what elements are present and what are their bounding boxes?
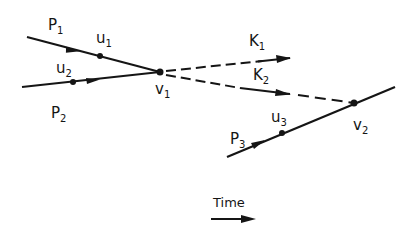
- label-u1: u1: [96, 29, 112, 49]
- label-u3: u3: [271, 108, 287, 128]
- label-k1: K1: [249, 32, 265, 52]
- label-p3: P3: [230, 130, 245, 150]
- point-u3-dot: [279, 130, 285, 136]
- p3-direction-arrow-icon: [251, 140, 265, 149]
- particle-p3-line: [227, 87, 395, 157]
- particle-p2-line: [22, 72, 160, 87]
- point-u2-dot: [70, 79, 76, 85]
- k2-direction-arrow-icon: [275, 89, 291, 96]
- time-arrow-icon: [211, 215, 256, 223]
- particle-p1-line: [27, 37, 160, 72]
- label-p1: P1: [48, 16, 63, 36]
- time-axis-label: Time: [212, 195, 245, 210]
- particle-k1-line: [166, 55, 291, 71]
- label-p2: P2: [51, 104, 66, 124]
- vertex-v1-dot: [157, 69, 164, 76]
- particle-interaction-diagram: P1 u1 u2 P2 v1 K1 K2 u3 P3 v2 Time: [0, 0, 413, 237]
- label-u2: u2: [56, 59, 72, 79]
- label-v1: v1: [155, 80, 170, 100]
- point-u1-dot: [97, 53, 103, 59]
- label-v2: v2: [353, 116, 368, 136]
- label-k2: K2: [253, 66, 269, 86]
- vertex-v2-dot: [351, 100, 358, 107]
